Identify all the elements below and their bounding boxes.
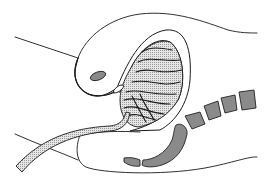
oval-opening	[89, 70, 107, 83]
vertebrae	[185, 90, 256, 129]
coccyx-tip	[124, 158, 140, 167]
upper-body-outline	[0, 0, 257, 58]
anatomical-illustration	[0, 0, 267, 189]
